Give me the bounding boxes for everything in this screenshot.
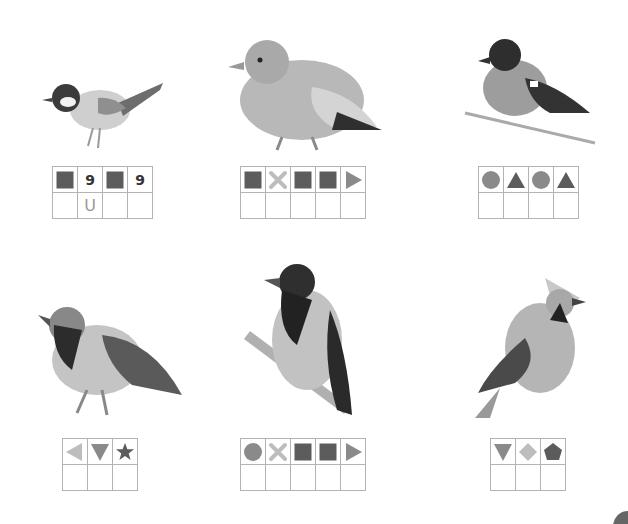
circle-icon	[531, 170, 551, 190]
square-icon	[293, 442, 313, 462]
square-icon	[318, 442, 338, 462]
code-grid-pigeon	[240, 166, 366, 219]
answer-letter-cell[interactable]	[529, 193, 554, 219]
code-symbol-cell	[88, 439, 113, 465]
code-symbol-cell: 9	[78, 167, 103, 193]
answer-letter-cell[interactable]	[316, 193, 341, 219]
answer-letter-cell[interactable]: U	[78, 193, 103, 219]
answer-letter: U	[84, 196, 96, 215]
code-symbol-cell	[341, 439, 366, 465]
answer-letter-cell[interactable]	[291, 193, 316, 219]
page-corner-tab	[613, 511, 628, 524]
cross-icon	[268, 442, 288, 462]
cross-icon	[268, 170, 288, 190]
code-symbol-cell	[554, 167, 579, 193]
code-grid-hooded-crow	[240, 438, 366, 491]
triangle-left-icon	[65, 442, 85, 462]
code-symbol-cell	[291, 167, 316, 193]
code-symbol-cell	[504, 167, 529, 193]
circle-icon	[243, 442, 263, 462]
answer-letter-cell[interactable]	[341, 193, 366, 219]
answer-letter-cell[interactable]	[128, 193, 153, 219]
code-symbol-text: 9	[135, 172, 145, 188]
answer-letter-cell[interactable]	[291, 465, 316, 491]
pentagon-icon	[543, 442, 563, 462]
code-symbol-cell	[103, 167, 128, 193]
square-icon	[243, 170, 263, 190]
code-symbol-cell	[113, 439, 138, 465]
code-symbol-cell	[316, 439, 341, 465]
code-symbol-cell	[241, 439, 266, 465]
answer-letter-cell[interactable]	[541, 465, 566, 491]
triangle-down-icon	[493, 442, 513, 462]
code-symbol-cell	[529, 167, 554, 193]
code-grid-bullfinch	[478, 166, 579, 219]
code-grid-waxwing	[490, 438, 566, 491]
code-symbol-cell	[541, 439, 566, 465]
answer-letter-cell[interactable]	[53, 193, 78, 219]
triangle-right-icon	[343, 170, 363, 190]
code-symbol-cell	[516, 439, 541, 465]
bird-illustration-waxwing	[470, 268, 588, 420]
code-symbol-cell	[341, 167, 366, 193]
circle-icon	[481, 170, 501, 190]
star-icon	[115, 442, 135, 462]
bird-illustration-sparrow	[32, 295, 192, 420]
code-symbol-cell: 9	[128, 167, 153, 193]
answer-letter-cell[interactable]	[316, 465, 341, 491]
code-symbol-cell	[316, 167, 341, 193]
answer-letter-cell[interactable]	[241, 465, 266, 491]
answer-letter-cell[interactable]	[479, 193, 504, 219]
triangle-up-icon	[506, 170, 526, 190]
answer-letter-cell[interactable]	[88, 465, 113, 491]
triangle-up-icon	[556, 170, 576, 190]
answer-letter-cell[interactable]	[504, 193, 529, 219]
answer-letter-cell[interactable]	[491, 465, 516, 491]
code-symbol-text: 9	[85, 172, 95, 188]
code-grid-sparrow	[62, 438, 138, 491]
square-icon	[105, 170, 125, 190]
answer-letter-cell[interactable]	[113, 465, 138, 491]
answer-letter-cell[interactable]	[63, 465, 88, 491]
bird-illustration-hooded-crow	[242, 260, 364, 420]
square-icon	[318, 170, 338, 190]
bird-illustration-great-tit	[38, 68, 168, 153]
answer-letter-cell[interactable]	[266, 465, 291, 491]
answer-letter-cell[interactable]	[516, 465, 541, 491]
answer-letter-cell[interactable]	[103, 193, 128, 219]
code-symbol-cell	[266, 167, 291, 193]
bird-illustration-bullfinch	[460, 33, 600, 148]
code-symbol-cell	[491, 439, 516, 465]
square-icon	[293, 170, 313, 190]
code-symbol-cell	[266, 439, 291, 465]
bird-illustration-pigeon	[222, 32, 384, 154]
diamond-icon	[518, 442, 538, 462]
code-grid-great-tit: 99U	[52, 166, 153, 219]
triangle-down-icon	[90, 442, 110, 462]
code-symbol-cell	[479, 167, 504, 193]
answer-letter-cell[interactable]	[266, 193, 291, 219]
code-symbol-cell	[63, 439, 88, 465]
answer-letter-cell[interactable]	[554, 193, 579, 219]
code-symbol-cell	[241, 167, 266, 193]
answer-letter-cell[interactable]	[241, 193, 266, 219]
square-icon	[55, 170, 75, 190]
code-symbol-cell	[53, 167, 78, 193]
answer-letter-cell[interactable]	[341, 465, 366, 491]
code-symbol-cell	[291, 439, 316, 465]
triangle-right-icon	[343, 442, 363, 462]
